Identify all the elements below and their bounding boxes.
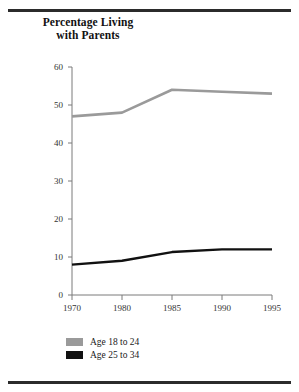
chart-title: Percentage Living with Parents	[18, 16, 158, 42]
chart-legend: Age 18 to 24Age 25 to 34	[66, 336, 236, 362]
series-line	[72, 249, 272, 264]
legend-item: Age 25 to 34	[66, 349, 236, 360]
x-tick-label: 1990	[213, 303, 232, 313]
series-line	[72, 90, 272, 117]
bottom-rule	[8, 381, 291, 384]
chart-title-line-2: with Parents	[18, 29, 158, 42]
y-tick-label: 20	[54, 214, 64, 224]
legend-swatch-gray	[66, 338, 83, 346]
x-tick-label: 1970	[63, 303, 82, 313]
x-tick-label: 1995	[263, 303, 282, 313]
y-tick-label: 50	[54, 100, 64, 110]
y-tick-label: 60	[54, 62, 64, 72]
y-tick-label: 40	[54, 138, 64, 148]
x-tick-label: 1980	[113, 303, 132, 313]
y-tick-label: 10	[54, 252, 64, 262]
legend-swatch-black	[66, 351, 83, 359]
top-rule	[8, 9, 291, 12]
y-axis: 6050403020100	[54, 62, 72, 300]
line-chart: 6050403020100 19701980198519901995	[0, 50, 299, 320]
series-layer	[72, 90, 272, 265]
x-tick-label: 1985	[163, 303, 182, 313]
legend-item: Age 18 to 24	[66, 336, 236, 347]
chart-title-line-1: Percentage Living	[43, 16, 134, 28]
plot-area: 6050403020100 19701980198519901995	[0, 50, 299, 320]
legend-item-label: Age 18 to 24	[90, 337, 139, 347]
y-tick-label: 30	[54, 176, 64, 186]
y-tick-label: 0	[59, 290, 64, 300]
legend-item-label: Age 25 to 34	[90, 350, 139, 360]
figure-container: Percentage Living with Parents 605040302…	[0, 0, 299, 392]
x-axis: 19701980198519901995	[63, 295, 282, 313]
